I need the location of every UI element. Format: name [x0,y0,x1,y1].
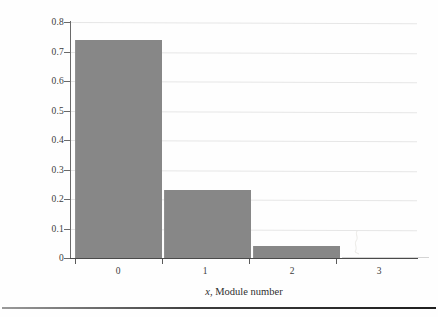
plot-area [70,22,417,258]
y-tick-mark-0 [64,258,70,259]
x-axis-title-rest: , Module number [210,286,283,297]
y-tick-label-0.6: 0.6 [18,76,64,86]
bar-category-0 [75,40,162,258]
x-tick-label-0: 0 [98,266,138,277]
y-tick-label-0.4: 0.4 [18,135,64,145]
page-bottom-rule [2,307,436,309]
y-tick-mark-0.6 [64,81,70,82]
y-axis-ticks: 0.8 0.7 0.6 0.5 0.4 0.3 0.2 0.1 0 [8,0,64,317]
y-tick-label-0.1: 0.1 [18,224,64,234]
gridline-0.8 [70,22,417,24]
x-axis-line [70,258,418,259]
x-tick-mark-2 [249,259,250,264]
y-tick-mark-0.1 [64,229,70,230]
bar-category-1 [164,190,251,258]
y-tick-mark-0.7 [64,52,70,53]
y-tick-mark-0.3 [64,170,70,171]
y-tick-label-0: 0 [18,253,64,263]
y-tick-mark-0.2 [64,199,70,200]
y-tick-mark-0.8 [64,22,70,23]
y-tick-mark-0.5 [64,111,70,112]
y-tick-label-0.2: 0.2 [18,194,64,204]
y-tick-label-0.8: 0.8 [18,17,64,27]
x-tick-label-1: 1 [185,266,225,277]
chart-figure: 0.8 0.7 0.6 0.5 0.4 0.3 0.2 0.1 0 0 1 2 … [0,0,438,317]
y-tick-label-0.7: 0.7 [18,47,64,57]
x-tick-mark-3 [336,259,337,264]
x-tick-mark-1 [162,259,163,264]
x-axis-title: x, Module number [70,285,418,298]
y-tick-label-0.3: 0.3 [18,165,64,175]
x-tick-label-2: 2 [272,266,312,277]
y-tick-mark-0.4 [64,140,70,141]
y-axis-line [70,21,71,259]
bar-category-2 [253,246,340,258]
x-tick-label-3: 3 [359,266,399,277]
x-tick-mark-0 [75,259,76,264]
y-tick-label-0.5: 0.5 [18,106,64,116]
